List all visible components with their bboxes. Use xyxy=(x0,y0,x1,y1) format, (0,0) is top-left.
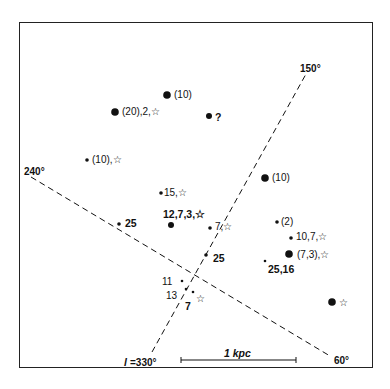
object-marker-dot xyxy=(168,222,174,228)
map-object: (10) xyxy=(261,172,290,183)
map-object: ☆ xyxy=(196,293,205,304)
axis-label-60: 60° xyxy=(334,355,349,366)
map-object: 25 xyxy=(117,217,137,229)
object-marker-dot xyxy=(275,220,279,224)
object-marker-dot xyxy=(264,260,267,263)
object-label: 10,7,☆ xyxy=(296,231,327,242)
object-label: ☆ xyxy=(196,293,205,304)
map-object: 11 xyxy=(162,276,183,287)
map-object: (10) xyxy=(163,89,192,100)
object-marker-dot xyxy=(111,108,119,116)
object-label: (10),☆ xyxy=(92,154,122,165)
object-marker-dot xyxy=(163,91,171,99)
object-label: 13 xyxy=(166,290,178,301)
map-object: 25 xyxy=(204,252,225,264)
map-object: ? xyxy=(206,111,221,123)
map-object: 12,7,3,☆ xyxy=(163,208,205,228)
map-object: (2) xyxy=(275,216,293,227)
object-marker-dot xyxy=(208,226,212,230)
object-marker-dot xyxy=(117,222,121,226)
object-label: 12,7,3,☆ xyxy=(163,208,205,220)
object-marker-dot xyxy=(185,288,188,291)
object-label: (2) xyxy=(281,216,293,227)
object-label: ☆ xyxy=(339,297,348,308)
map-object: (7,3),☆ xyxy=(285,249,329,260)
axis-label-l-symbol: l xyxy=(124,356,128,368)
axis-label-150: 150° xyxy=(300,63,321,74)
galactic-map: 150° 240° 60° l =330° 1 kpc (10)(20),2,☆… xyxy=(0,0,390,389)
object-label: 25 xyxy=(125,217,137,229)
object-label: 7 xyxy=(185,300,191,312)
axis-label-240: 240° xyxy=(24,166,45,177)
object-label: (20),2,☆ xyxy=(122,106,160,117)
map-object: 7 xyxy=(185,291,194,312)
map-object: ☆ xyxy=(328,297,348,308)
object-label: (10) xyxy=(174,89,192,100)
object-label: 25 xyxy=(213,252,225,264)
object-marker-dot xyxy=(85,158,89,162)
object-label: 7,☆ xyxy=(215,221,232,232)
object-label: (7,3),☆ xyxy=(297,249,329,260)
object-label: 15,☆ xyxy=(164,187,187,198)
object-label: 11 xyxy=(162,276,173,287)
object-marker-dot xyxy=(261,174,269,182)
object-marker-dot xyxy=(285,250,293,258)
scale-bar-label: 1 kpc xyxy=(224,347,251,359)
object-label: ? xyxy=(215,111,221,123)
map-object: (10),☆ xyxy=(85,154,121,165)
map-object: (20),2,☆ xyxy=(111,106,160,117)
axis-label-330: =330° xyxy=(130,357,157,368)
map-object: 10,7,☆ xyxy=(289,231,327,242)
object-label: 25,16 xyxy=(268,263,294,275)
object-marker-dot xyxy=(289,236,293,240)
object-marker-dot xyxy=(328,298,336,306)
object-marker-dot xyxy=(159,191,163,195)
map-object: 25,16 xyxy=(264,260,295,275)
scale-bar: 1 kpc xyxy=(181,347,296,363)
map-object: 7,☆ xyxy=(208,221,232,232)
object-marker-dot xyxy=(192,291,195,294)
object-label: (10) xyxy=(272,172,290,183)
map-object: 15,☆ xyxy=(159,187,187,198)
objects-layer: (10)(20),2,☆?(10),☆(10)15,☆12,7,3,☆257,☆… xyxy=(85,89,348,312)
object-marker-dot xyxy=(206,113,212,119)
object-marker-dot xyxy=(181,280,184,283)
object-marker-dot xyxy=(204,253,208,257)
